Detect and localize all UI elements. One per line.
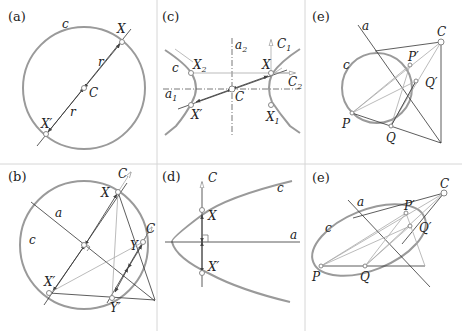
label-c: c [29, 233, 36, 247]
label-c-center: C [208, 171, 217, 185]
panel-a: (a) c X X′ C r r [8, 9, 145, 149]
point-q-prime [408, 224, 412, 228]
point-y [141, 240, 146, 245]
label-center: C [235, 90, 244, 104]
label-x-prime: X′ [190, 108, 203, 122]
label-x: X [116, 22, 126, 36]
arrow-yprime [115, 268, 128, 292]
panel-d: (d) C c a X X′ [162, 169, 300, 302]
label-c: c [172, 61, 179, 75]
point-mid [82, 243, 87, 248]
right-angle-mark [202, 235, 208, 242]
label-p: P [311, 270, 321, 284]
label-p-prime: P′ [403, 199, 415, 213]
arrow-x [85, 194, 117, 245]
panel-c-label: (c) [162, 9, 179, 24]
label-a: a [362, 19, 369, 33]
panel-b-label: (b) [8, 169, 26, 184]
point-x-prime [47, 291, 52, 296]
label-c2: C2 [288, 75, 302, 91]
panel-c: (c) c X2 X X′ X1 C a1 a2 C1 C2 [162, 9, 302, 135]
label-x-prime: X′ [43, 275, 56, 289]
point-x [200, 208, 205, 213]
label-a: a [290, 228, 297, 242]
label-x2: X2 [192, 58, 207, 74]
point-x [120, 40, 125, 45]
panel-e-bottom: (e) a c C P Q P′ Q′ [302, 170, 449, 290]
point-y-prime [110, 296, 115, 301]
point-q [389, 124, 393, 128]
point-x-prime [44, 132, 49, 137]
panel-e-top: (e) a c C P Q P′ Q′ [312, 9, 446, 145]
label-center: C [437, 25, 446, 39]
point-p [350, 111, 354, 115]
line-q-qprime [391, 81, 416, 126]
label-x-prime: X′ [40, 117, 53, 131]
arrow-c-to-x [232, 76, 268, 89]
label-r2: r [70, 105, 77, 119]
label-q: Q [360, 270, 370, 284]
label-y-prime: Y′ [110, 301, 121, 315]
label-center: C [89, 86, 98, 100]
point-q-prime [414, 79, 418, 83]
panel-d-label: (d) [162, 169, 180, 184]
label-c: c [325, 221, 332, 235]
label-c: c [277, 181, 284, 195]
label-a: a [55, 206, 62, 220]
line-xprime-to-p [49, 293, 155, 300]
label-q-prime: Q′ [425, 76, 438, 90]
point-x-prime [200, 271, 205, 276]
label-c: c [343, 58, 350, 72]
arrow-c-to-xprime [196, 89, 232, 102]
line-x-to-yprime [112, 192, 118, 298]
point-center [82, 86, 87, 91]
label-a2: a2 [235, 38, 247, 54]
label-x-prime: X′ [207, 260, 220, 274]
point-x [116, 190, 121, 195]
label-c1: C1 [277, 37, 291, 53]
point-q [363, 264, 367, 268]
label-c-top: C [118, 167, 127, 181]
label-y: Y [130, 239, 139, 253]
point-p [319, 264, 323, 268]
point-x1 [269, 103, 274, 108]
point-center [438, 39, 444, 45]
figure-canvas: (a) c X X′ C r r (c) [0, 0, 462, 331]
label-center: C [440, 177, 449, 191]
label-x: X [100, 186, 110, 200]
panel-e-top-label: (e) [312, 9, 330, 24]
radius-arrow-lower [48, 88, 84, 132]
panel-e-bottom-label: (e) [312, 170, 330, 185]
label-q: Q [386, 131, 396, 145]
label-a: a [357, 195, 364, 209]
label-p: P [341, 117, 351, 131]
panel-a-label: (a) [8, 9, 26, 24]
label-x1: X1 [265, 110, 280, 126]
label-p-prime: P′ [407, 50, 419, 64]
arrow-xprime [53, 245, 85, 291]
chord-q-qprime [365, 226, 410, 266]
label-x: X [207, 209, 217, 223]
label-x: X [261, 58, 271, 72]
label-c: c [62, 17, 69, 31]
chord-p-pprime [352, 65, 410, 113]
point-x-prime [189, 103, 194, 108]
label-r1: r [98, 55, 105, 69]
panel-b: (b) c a X X′ Y Y′ C C [8, 167, 155, 315]
label-q-prime: Q′ [419, 221, 432, 235]
parabola-c [172, 181, 292, 302]
label-c-right: C [146, 222, 155, 236]
line-xprime-to-y [49, 242, 143, 293]
